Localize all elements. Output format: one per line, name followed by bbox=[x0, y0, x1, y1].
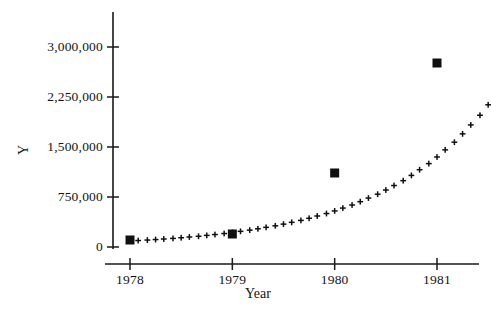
data-point-plus bbox=[477, 112, 483, 118]
data-point-square bbox=[433, 59, 442, 68]
data-point-plus bbox=[426, 161, 432, 167]
data-point-plus bbox=[306, 215, 312, 221]
data-point-plus bbox=[451, 139, 457, 145]
x-tick-label: 1978 bbox=[116, 272, 144, 288]
data-point-plus bbox=[332, 208, 338, 214]
data-point-plus bbox=[186, 234, 192, 240]
data-point-plus bbox=[340, 205, 346, 211]
data-point-plus bbox=[289, 219, 295, 225]
data-point-plus bbox=[212, 232, 218, 238]
data-point-plus bbox=[247, 227, 253, 233]
data-point-plus bbox=[434, 154, 440, 160]
data-point-plus bbox=[170, 236, 176, 242]
x-tick-label: 1981 bbox=[423, 272, 451, 288]
y-tick-label: 3,000,000 bbox=[47, 39, 103, 55]
data-point-square bbox=[228, 230, 237, 239]
data-point-plus bbox=[272, 223, 278, 229]
data-point-plus bbox=[144, 237, 150, 243]
x-tick-label: 1979 bbox=[218, 272, 246, 288]
data-point-plus bbox=[314, 213, 320, 219]
x-axis-title: Year bbox=[245, 286, 271, 302]
chart-container: 0750,0001,500,0002,250,0003,000,000 1978… bbox=[0, 0, 491, 316]
y-tick-label: 0 bbox=[96, 239, 103, 255]
data-point-plus bbox=[153, 237, 159, 243]
data-point-plus bbox=[442, 147, 448, 153]
data-point-plus bbox=[366, 195, 372, 201]
data-point-plus bbox=[263, 224, 269, 230]
data-point-square bbox=[330, 169, 339, 178]
data-point-plus bbox=[375, 191, 381, 197]
data-point-plus bbox=[255, 226, 261, 232]
data-point-plus bbox=[161, 236, 167, 242]
x-tick-label: 1980 bbox=[321, 272, 349, 288]
data-point-plus bbox=[468, 122, 474, 128]
data-point-plus bbox=[204, 233, 210, 239]
data-point-plus bbox=[409, 173, 415, 179]
data-point-square bbox=[126, 236, 135, 245]
data-point-plus bbox=[391, 183, 397, 189]
y-tick-label: 750,000 bbox=[58, 189, 103, 205]
data-point-plus bbox=[178, 235, 184, 241]
data-point-plus bbox=[298, 218, 304, 224]
data-point-plus bbox=[417, 167, 423, 173]
data-point-plus bbox=[400, 178, 406, 184]
data-point-plus bbox=[349, 202, 355, 208]
data-point-plus bbox=[383, 187, 389, 193]
data-point-plus bbox=[238, 228, 244, 234]
data-point-plus bbox=[221, 231, 227, 237]
data-point-plus bbox=[324, 211, 330, 217]
series-fitted-markers bbox=[127, 102, 491, 244]
data-point-plus bbox=[135, 238, 141, 244]
data-point-plus bbox=[460, 131, 466, 137]
y-tick-label: 1,500,000 bbox=[47, 139, 103, 155]
data-point-plus bbox=[357, 199, 363, 205]
data-point-plus bbox=[196, 233, 202, 239]
y-axis-title: Y bbox=[16, 145, 32, 155]
data-point-plus bbox=[485, 102, 491, 108]
y-tick-label: 2,250,000 bbox=[47, 89, 103, 105]
data-point-plus bbox=[281, 221, 287, 227]
axes-group bbox=[105, 12, 479, 264]
series-observed-markers bbox=[126, 59, 442, 245]
